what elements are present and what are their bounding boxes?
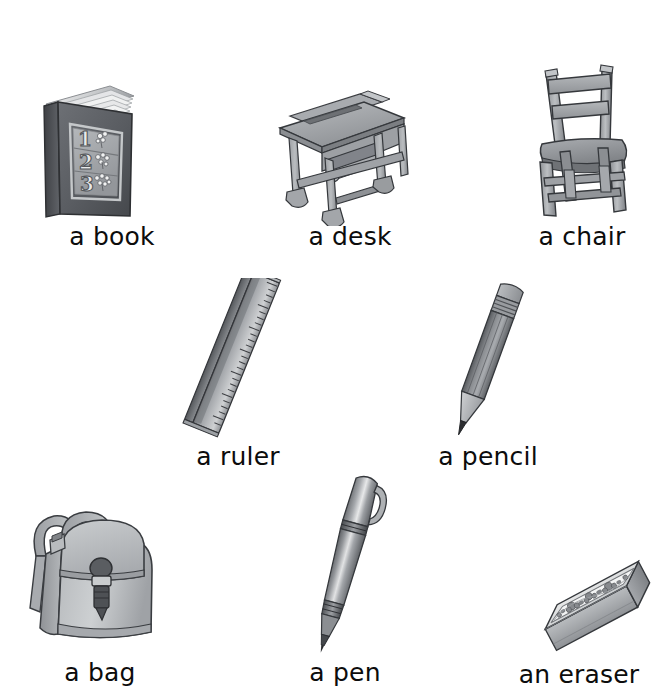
item-card-book[interactable]: 1 2 3 a book — [14, 72, 210, 252]
item-label-pencil: a pencil — [400, 444, 576, 469]
item-label-chair: a chair — [498, 224, 666, 249]
desk-icon — [252, 76, 448, 226]
worksheet-page: 1 2 3 a book — [0, 0, 666, 694]
item-label-book: a book — [14, 224, 210, 249]
eraser-icon — [492, 512, 666, 660]
item-card-bag[interactable]: a bag — [2, 500, 198, 690]
pen-icon — [262, 470, 428, 658]
item-label-ruler: a ruler — [140, 444, 336, 469]
item-label-bag: a bag — [2, 660, 198, 685]
item-card-pen[interactable]: a pen — [262, 470, 428, 690]
backpack-icon — [2, 500, 198, 658]
svg-text:1: 1 — [78, 127, 92, 151]
svg-text:3: 3 — [80, 172, 94, 196]
svg-text:2: 2 — [79, 150, 93, 174]
item-label-desk: a desk — [252, 224, 448, 249]
item-card-chair[interactable]: a chair — [498, 58, 666, 252]
item-label-eraser: an eraser — [492, 662, 666, 687]
ruler-icon — [140, 278, 336, 442]
item-label-pen: a pen — [262, 660, 428, 685]
item-card-ruler[interactable]: a ruler — [140, 278, 336, 472]
chair-icon — [498, 58, 666, 222]
item-card-desk[interactable]: a desk — [252, 76, 448, 252]
item-card-eraser[interactable]: an eraser — [492, 512, 666, 690]
book-icon: 1 2 3 — [14, 72, 210, 222]
pencil-icon — [400, 278, 576, 442]
item-card-pencil[interactable]: a pencil — [400, 278, 576, 472]
